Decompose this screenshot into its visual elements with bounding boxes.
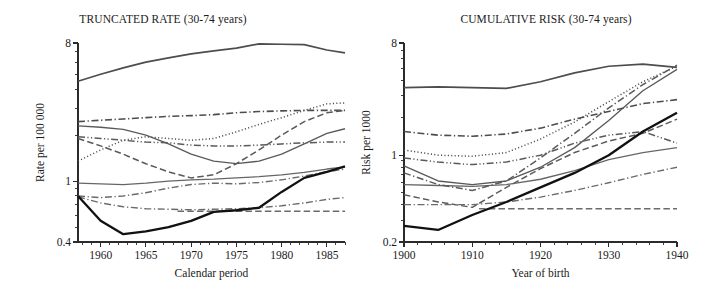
y-tick-label: 8 [65,37,71,49]
chart-panel-left: TRUNCATED RATE (30-74 years) 810.4196019… [0,0,358,298]
y-axis-title: Risk per 1000 [360,110,373,175]
x-tick-label: 1940 [666,249,689,261]
x-tick-label: 1910 [461,249,484,261]
y-tick-label: 8 [391,37,397,49]
series-line-series-1-top-solid [404,64,677,88]
x-tick-label: 1975 [225,249,248,261]
y-tick-label: 1 [65,175,71,187]
panel-left-plot: 810.4196019651970197519801985Calendar pe… [0,0,358,298]
y-tick-label: 0.4 [57,236,72,248]
y-tick-label: 0.2 [383,236,398,248]
x-tick-label: 1900 [393,249,416,261]
x-axis-title: Year of birth [511,267,569,279]
panel-right-plot: 810.219001910192019301940Year of birthRi… [357,0,715,298]
x-tick-label: 1970 [180,249,203,261]
series-line-series-5-dashdotdot [78,137,345,146]
series-line-series-2-dashdot-upper [78,110,345,121]
x-tick-label: 1930 [597,249,620,261]
series-line-series-2-dashdot-upper [404,100,677,137]
series-line-series-3-solid-declining [78,126,345,164]
series-line-series-11-black-bold [404,113,677,230]
series-line-series-11-black-bold [78,166,345,234]
chart-panel-right: CUMULATIVE RISK (30-74 years) 810.219001… [357,0,715,298]
series-group [78,44,345,234]
y-tick-label: 1 [391,149,397,161]
x-tick-label: 1985 [315,249,338,261]
x-tick-label: 1965 [134,249,157,261]
x-tick-label: 1960 [89,249,112,261]
y-axis-title: Rate per 100 000 [34,103,47,182]
series-line-series-3-dotted [404,66,677,156]
axis-frame [404,43,677,242]
x-axis-title: Calendar period [175,267,249,280]
series-line-series-8-dashdot-lower [78,169,345,198]
x-tick-label: 1980 [270,249,293,261]
series-line-series-1-top-solid [78,44,345,81]
series-group [404,64,677,230]
series-line-series-9-dashdot-bottom [78,197,345,210]
x-tick-label: 1920 [529,249,552,261]
figure-root: TRUNCATED RATE (30-74 years) 810.4196019… [0,0,715,298]
